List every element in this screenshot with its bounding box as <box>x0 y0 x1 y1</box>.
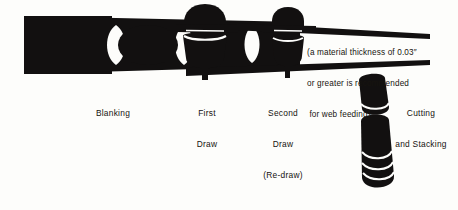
first-draw-stem <box>202 62 208 80</box>
second-draw-carrier-band <box>262 25 316 33</box>
second-draw-parting-line <box>274 31 302 32</box>
first-draw-parting-line <box>186 31 224 32</box>
diagram-canvas: (a material thickness of 0.03″ or greate… <box>0 0 458 210</box>
process-flow-illustration <box>0 0 458 210</box>
second-draw-stem <box>285 62 290 78</box>
cutting-stacking-station <box>359 74 394 188</box>
blank-slug-1 <box>118 25 178 65</box>
first-draw-carrier-band <box>176 24 238 33</box>
